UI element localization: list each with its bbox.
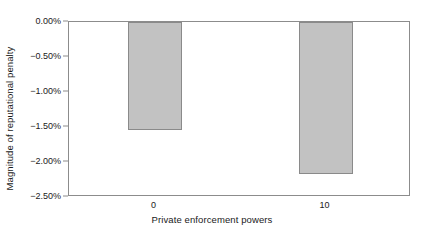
y-tick-label: −2.00% <box>30 156 61 166</box>
x-tick-label: 0 <box>151 200 156 210</box>
bar <box>128 22 182 130</box>
y-tick-label: 0.00% <box>35 16 61 26</box>
plot-area <box>68 21 410 196</box>
bar-chart: Magnitude of reputational penalty 0.00%−… <box>0 0 424 237</box>
y-axis-title: Magnitude of reputational penalty <box>0 0 18 237</box>
bar <box>299 22 353 174</box>
x-axis-title: Private enforcement powers <box>0 214 424 225</box>
y-tick-label: −2.50% <box>30 191 61 201</box>
y-tick-label: −0.50% <box>30 51 61 61</box>
y-tick-label: −1.50% <box>30 121 61 131</box>
y-tick-label: −1.00% <box>30 86 61 96</box>
x-tick-label: 10 <box>319 200 329 210</box>
